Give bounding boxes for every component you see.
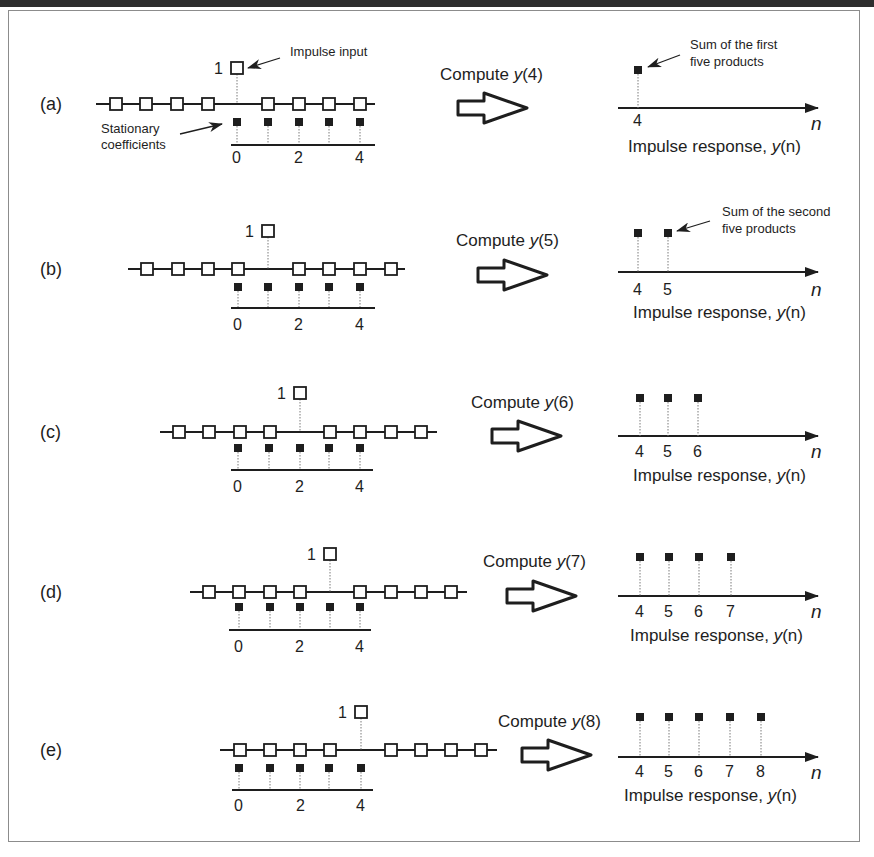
stationary-annotation-line2: coefficients <box>101 137 166 152</box>
n-tick-7: 7 <box>726 603 735 620</box>
n-axis-label: n <box>811 279 822 300</box>
coef-index-4: 4 <box>355 478 364 495</box>
impulse-sample <box>294 387 306 399</box>
impulse-pointer-arrow <box>248 58 280 68</box>
impulse-sample <box>324 548 336 560</box>
coef-index-4: 4 <box>356 797 365 814</box>
coef-index-0: 0 <box>233 316 242 333</box>
sum-first-line2: five products <box>690 54 764 69</box>
coef-index-0: 0 <box>234 638 243 655</box>
n-tick-4: 4 <box>633 281 642 298</box>
impulse-value: 1 <box>277 385 286 402</box>
coef-index-4: 4 <box>355 316 364 333</box>
coef-index-2: 2 <box>296 797 305 814</box>
n-tick-6: 6 <box>693 443 702 460</box>
n-tick-5: 5 <box>663 443 672 460</box>
impulse-response-title: Impulse response, y(n) <box>624 786 797 805</box>
row-c: (c) 1 0 2 4 Compute y(6) <box>40 385 822 495</box>
impulse-sample <box>355 706 367 718</box>
compute-label: Compute y(4) <box>440 65 543 84</box>
n-axis-label: n <box>811 762 822 783</box>
row-b: (b) 1 0 2 4 Compute y(5) <box>40 204 830 333</box>
stationary-annotation-line1: Stationary <box>101 121 160 136</box>
compute-arrow-icon <box>522 740 591 770</box>
coefficients <box>229 603 371 630</box>
fir-impulse-response-diagram: (a) 1 Impulse input 0 2 <box>0 0 874 857</box>
coefficients <box>231 444 373 470</box>
row-label: (e) <box>40 740 62 760</box>
n-axis-label: n <box>811 113 822 134</box>
n-tick-4: 4 <box>635 443 644 460</box>
coef-index-0: 0 <box>232 149 241 166</box>
n-tick-5: 5 <box>664 763 673 780</box>
row-d: (d) 1 0 2 4 Compute y(7) <box>40 546 822 655</box>
coefficients-pointer-arrow <box>180 124 222 134</box>
compute-label: Compute y(6) <box>471 393 574 412</box>
coef-index-0: 0 <box>233 478 242 495</box>
output-samples <box>636 394 702 436</box>
impulse-response-title: Impulse response, y(n) <box>633 303 806 322</box>
coef-index-4: 4 <box>355 638 364 655</box>
impulse-value: 1 <box>307 546 316 563</box>
impulse-sample <box>231 62 243 74</box>
n-tick-5: 5 <box>664 603 673 620</box>
sum-second-line2: five products <box>722 221 796 236</box>
n-tick-6: 6 <box>694 603 703 620</box>
compute-arrow-icon <box>458 93 527 123</box>
output-samples <box>636 553 735 596</box>
row-label: (c) <box>40 422 61 442</box>
impulse-response-title: Impulse response, y(n) <box>628 137 801 156</box>
output-sample <box>634 66 642 74</box>
sum-pointer-arrow <box>648 55 680 67</box>
coef-index-2: 2 <box>294 316 303 333</box>
compute-label: Compute y(7) <box>483 552 586 571</box>
compute-arrow-icon <box>507 581 576 611</box>
impulse-sample <box>262 225 274 237</box>
n-axis-label: n <box>811 441 822 462</box>
n-tick-6: 6 <box>694 763 703 780</box>
impulse-input-annotation: Impulse input <box>290 44 368 59</box>
compute-arrow-icon <box>492 421 561 451</box>
impulse-response-title: Impulse response, y(n) <box>633 466 806 485</box>
coef-index-2: 2 <box>295 638 304 655</box>
compute-label: Compute y(5) <box>456 231 559 250</box>
coef-index-2: 2 <box>294 149 303 166</box>
impulse-value: 1 <box>338 704 347 721</box>
coef-index-2: 2 <box>295 478 304 495</box>
n-tick-4: 4 <box>635 763 644 780</box>
n-tick-4: 4 <box>635 603 644 620</box>
row-e: (e) 1 0 2 4 Compute y(8) <box>40 704 822 814</box>
row-label: (a) <box>40 94 62 114</box>
output-samples <box>634 229 672 272</box>
coef-index-4: 4 <box>355 149 364 166</box>
coefficients <box>231 118 375 145</box>
coefficients <box>231 283 375 308</box>
compute-arrow-icon <box>478 260 547 290</box>
impulse-response-title: Impulse response, y(n) <box>630 626 803 645</box>
n-tick-7: 7 <box>725 763 734 780</box>
row-a: (a) 1 Impulse input 0 2 <box>40 37 822 166</box>
sum-pointer-arrow <box>677 221 710 231</box>
n-tick-4: 4 <box>633 112 642 129</box>
row-label: (d) <box>40 582 62 602</box>
sum-first-line1: Sum of the first <box>690 37 778 52</box>
n-axis-label: n <box>811 601 822 622</box>
coef-index-0: 0 <box>234 797 243 814</box>
impulse-value: 1 <box>245 223 254 240</box>
n-tick-8: 8 <box>756 763 765 780</box>
row-label: (b) <box>40 259 62 279</box>
n-tick-5: 5 <box>663 281 672 298</box>
impulse-value: 1 <box>214 60 223 77</box>
sum-second-line1: Sum of the second <box>722 204 830 219</box>
output-samples <box>636 713 765 757</box>
compute-label: Compute y(8) <box>498 712 601 731</box>
coefficients <box>232 764 373 790</box>
